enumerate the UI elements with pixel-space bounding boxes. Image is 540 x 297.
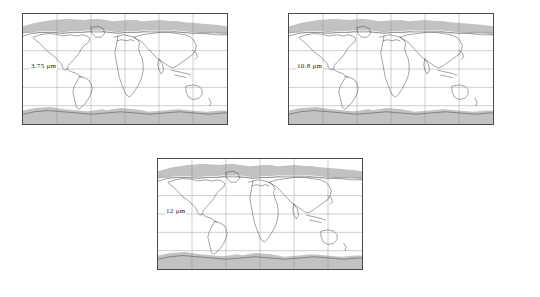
x-tick-label: 0°: [388, 124, 395, 125]
x-tick-label: 120°W: [47, 124, 68, 125]
map-figure: 3.75 μm 60°N 30° 0° 30° 60° 90°S 180° 12…: [0, 0, 540, 297]
y-tick-label: 30°: [227, 86, 228, 94]
x-tick-label: 180°: [157, 269, 165, 270]
panel-label-wavelength: 3.75 μm: [30, 62, 57, 70]
y-tick-label: 30°: [493, 49, 494, 57]
y-tick-label: 30°: [493, 86, 494, 94]
x-tick-label: 60°W: [82, 124, 99, 125]
x-tick-label: 180°: [220, 124, 228, 125]
y-tick-label: 60°N: [493, 31, 494, 39]
x-tick-label: 60°W: [217, 269, 234, 270]
panel-108: 10.8 μm 60°N 30° 0° 30° 60° 90°S 180° 12…: [288, 13, 494, 125]
y-tick-label: 60°: [362, 249, 363, 257]
panel-label-wavelength: 12 μm: [165, 207, 186, 215]
x-tick-label: 120°W: [182, 269, 203, 270]
x-tick-label: 120°W: [313, 124, 334, 125]
x-tick-label: 60°E: [418, 124, 433, 125]
y-tick-label: 30°: [362, 231, 363, 239]
y-tick-label: 30°: [362, 194, 363, 202]
y-tick-label: 90°S: [493, 120, 494, 125]
x-tick-label: 180°: [288, 124, 296, 125]
y-tick-label: 0°: [493, 67, 494, 75]
x-tick-label: 180°: [22, 124, 30, 125]
y-tick-label: 60°N: [362, 176, 363, 184]
y-tick-label: 60°N: [227, 31, 228, 39]
panel-12: 12 μm 60°N 30° 0° 30° 60° 90°S 180° 120°…: [157, 158, 363, 270]
x-tick-label: 0°: [122, 124, 129, 125]
panel-375: 3.75 μm 60°N 30° 0° 30° 60° 90°S 180° 12…: [22, 13, 228, 125]
x-tick-label: 60°W: [348, 124, 365, 125]
map-frame: 12 μm 60°N 30° 0° 30° 60° 90°S 180° 120°…: [157, 158, 363, 270]
y-tick-label: 60°: [227, 104, 228, 112]
x-tick-label: 180°: [355, 269, 363, 270]
x-tick-label: 0°: [257, 269, 264, 270]
y-tick-label: 60°: [493, 104, 494, 112]
y-tick-label: 90°S: [362, 265, 363, 270]
map-frame: 3.75 μm 60°N 30° 0° 30° 60° 90°S 180° 12…: [22, 13, 228, 125]
x-tick-label: 120°E: [319, 269, 338, 270]
world-map: [158, 159, 362, 269]
panel-label-wavelength: 10.8 μm: [296, 62, 323, 70]
y-tick-label: 0°: [362, 212, 363, 220]
x-tick-label: 120°E: [450, 124, 469, 125]
y-tick-label: 90°S: [227, 120, 228, 125]
y-tick-label: 30°: [227, 49, 228, 57]
y-tick-label: 0°: [227, 67, 228, 75]
x-tick-label: 60°E: [152, 124, 167, 125]
map-frame: 10.8 μm 60°N 30° 0° 30° 60° 90°S 180° 12…: [288, 13, 494, 125]
x-tick-label: 60°E: [287, 269, 302, 270]
x-tick-label: 180°: [486, 124, 494, 125]
x-tick-label: 120°E: [184, 124, 203, 125]
